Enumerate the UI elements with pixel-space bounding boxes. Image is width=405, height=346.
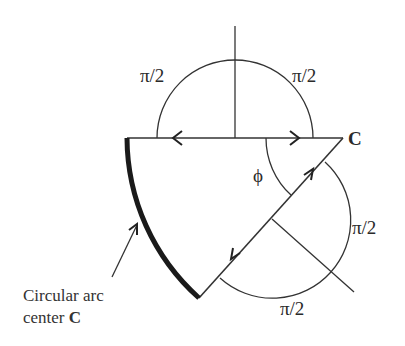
label-angle-right: π/2 (352, 217, 376, 238)
phi-arc (266, 138, 291, 195)
caption-line-2-prefix: center (23, 308, 69, 327)
circular-arc (127, 138, 199, 298)
label-angle-top-left: π/2 (140, 65, 164, 86)
caption-line-2: center C (23, 308, 81, 327)
label-angle-top-right: π/2 (292, 65, 316, 86)
label-point-c: C (348, 128, 362, 149)
arrow-up-right-icon (304, 169, 313, 180)
diagonal-edge (199, 138, 343, 298)
label-phi: ϕ (253, 165, 263, 186)
pointer-line (112, 225, 137, 277)
caption-center-c: C (69, 308, 81, 327)
label-angle-bottom: π/2 (280, 298, 304, 319)
diagram-canvas: π/2 π/2 π/2 π/2 ϕ C Circular arc center … (0, 0, 405, 346)
caption-line-1: Circular arc (23, 286, 104, 305)
